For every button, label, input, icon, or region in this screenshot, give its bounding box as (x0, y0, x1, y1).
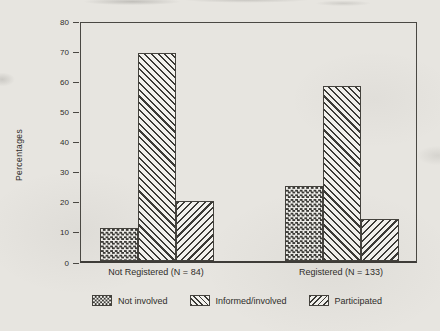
chart-legend: Not involvedInformed/involvedParticipate… (92, 295, 382, 306)
bar-not-registered-informed-involved (138, 53, 176, 261)
y-tick-mark (73, 232, 79, 233)
plot-area (80, 22, 417, 263)
legend-label: Not involved (118, 296, 168, 306)
y-tick-label: 30 (43, 168, 69, 177)
legend-swatch-diagonal-backslash-icon (190, 295, 210, 306)
y-tick-mark (73, 202, 79, 203)
bar-registered-informed-involved (323, 86, 361, 261)
y-axis-title: Percentages (14, 129, 24, 181)
y-tick-label: 60 (43, 78, 69, 87)
y-tick-label: 10 (43, 228, 69, 237)
y-tick-mark (73, 263, 79, 264)
legend-item-informed-involved: Informed/involved (190, 295, 287, 306)
scanned-chart-page: Percentages 01020304050607080 Not Regist… (0, 0, 440, 331)
y-tick-mark (73, 112, 79, 113)
legend-swatch-checkerboard-icon (92, 295, 112, 306)
bar-chart-figure: Percentages 01020304050607080 Not Regist… (0, 0, 440, 331)
x-category-label: Registered (N = 133) (241, 267, 440, 277)
y-tick-label: 70 (43, 48, 69, 57)
legend-label: Informed/involved (216, 296, 287, 306)
bar-registered-participated (361, 219, 399, 261)
y-tick-label: 50 (43, 108, 69, 117)
legend-swatch-diagonal-slash-icon (309, 295, 329, 306)
y-tick-label: 40 (43, 138, 69, 147)
bar-not-registered-participated (176, 201, 214, 261)
legend-item-not-involved: Not involved (92, 295, 168, 306)
y-tick-mark (73, 82, 79, 83)
y-tick-mark (73, 142, 79, 143)
y-tick-label: 80 (43, 18, 69, 27)
y-tick-label: 20 (43, 198, 69, 207)
legend-item-participated: Participated (309, 295, 383, 306)
bar-not-registered-not-involved (100, 228, 138, 261)
y-tick-mark (73, 172, 79, 173)
legend-label: Participated (335, 296, 383, 306)
bar-registered-not-involved (285, 186, 323, 261)
x-category-label: Not Registered (N = 84) (56, 267, 256, 277)
y-tick-mark (73, 52, 79, 53)
y-tick-mark (73, 22, 79, 23)
